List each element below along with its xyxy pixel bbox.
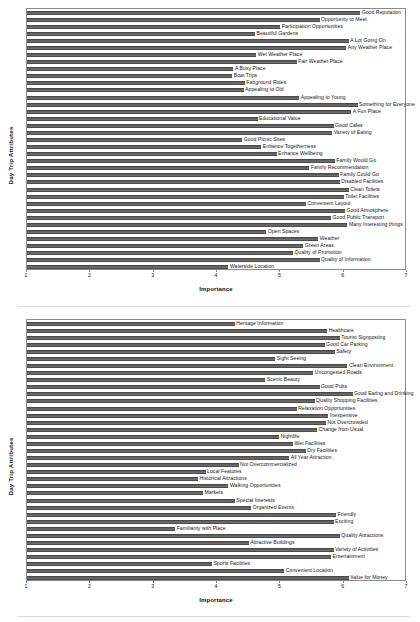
bar [27,527,175,531]
bar-row: Fairground Rides [27,81,407,85]
bar-row: Appealing to Young [27,96,407,100]
bar-row: A Fun Place [27,110,407,114]
bar [27,223,347,227]
bar-row: Inexpensive [27,414,407,418]
bar-row: Enhance Wellbeing [27,152,407,156]
bar-row: Weather [27,237,407,241]
bar-row: Good Picnic Sites [27,138,407,142]
x-axis-tick-label: 4 [215,272,218,278]
bar-row: Local Features [27,470,407,474]
chart-1-x-axis: 1234567 [26,270,406,282]
bar-row: Entertainment [27,555,407,559]
bar-row: A Busy Place [27,67,407,71]
bar-value-label: Family Would Go [335,159,376,164]
bar-row: Familiarity with Place [27,527,407,531]
bar-value-label: Sports Facilities [212,562,250,567]
bar [27,96,299,100]
bar-row: Exciting [27,520,407,524]
bar-value-label: Open Spaces [266,230,299,235]
bar-value-label: Tourist Signposting [340,335,386,340]
chart-2-x-axis-title: Importance [26,597,406,603]
bar [27,237,318,241]
bar [27,258,320,262]
bar-value-label: Familiarity with Place [175,526,225,531]
bar-row: Many Interesting things [27,223,407,227]
chart-2: Day Trip Attributes Heritage Information… [0,311,420,622]
bar [27,216,331,220]
x-axis-tick-label: 1 [25,583,28,589]
bar-row: Quality of Promotion [27,251,407,255]
bar-row: Appealing to Old [27,88,407,92]
chart-1-x-axis-title: Importance [26,286,406,292]
bar [27,18,320,22]
bar-value-label: Friendly [336,512,356,517]
bar [27,166,309,170]
bar-row: Variety of Eating [27,131,407,135]
bar [27,456,289,460]
chart-1-y-axis-title: Day Trip Attributes [2,0,20,311]
bar-row: Open Spaces [27,230,407,234]
bar-row: Enhance Togetherness [27,145,407,149]
bar-row: Good Eating and Drinking [27,392,407,396]
bar-value-label: Local Features [206,470,242,475]
bar-value-label: Boat Trips [232,74,257,79]
bar [27,491,203,495]
bar [27,67,233,71]
bar-row: All Year Attraction [27,456,407,460]
bar [27,74,232,78]
bar [27,117,258,121]
bar-value-label: Good Picnic Sites [242,137,285,142]
bar-row: Good Pubs [27,385,407,389]
bar-row: Opportunity to Meet [27,18,407,22]
bar-value-label: Good Reputation [360,10,401,15]
bar-value-label: Fairground Rides [245,81,286,86]
x-axis-tick-label: 2 [88,272,91,278]
bar [27,484,228,488]
bar-row: Family Recommendation [27,166,407,170]
bar-row: Green Areas [27,244,407,248]
bar-row: Not Overcommercialized [27,463,407,467]
bar-row: Good Cafes [27,124,407,128]
bar [27,449,306,453]
bar-value-label: Beautiful Gardens [255,31,298,36]
bar-value-label: Variety of Eating [332,130,371,135]
bar-row: Waterside Location [27,265,407,269]
bar-value-label: Clean Environment [347,363,393,368]
bar [27,81,245,85]
bar-row: Historical Attractions [27,477,407,481]
bar-value-label: Organized Events [251,505,294,510]
bar-value-label: Toilet Facilities [344,194,379,199]
bar [27,520,334,524]
bar-row: Quality of Information [27,258,407,262]
bar-value-label: Healthcare [327,328,354,333]
bar-value-label: Quality of Promotion [293,251,342,256]
bar-value-label: Good Public Transport [331,215,384,220]
bar-value-label: Dry Facilities [306,448,337,453]
bar-row: Beautiful Gardens [27,32,407,36]
bar-row: Good Reputation [27,11,407,15]
x-axis-tick-label: 6 [341,272,344,278]
bar-row: Uncongested Roads [27,371,407,375]
bar-value-label: All Year Attraction [289,456,331,461]
bar-value-label: A Lot Going On [349,38,386,43]
bar [27,392,353,396]
bar-row: Educational Value [27,117,407,121]
bar-row: Family Would Go [27,159,407,163]
bar [27,371,313,375]
x-axis-tick-label: 4 [215,583,218,589]
bar [27,244,303,248]
bar-value-label: Fair Weather Place [297,60,343,65]
chart-1-bars: Good ReputationOpportunity to MeetPartic… [27,9,405,269]
bar-row: Good Public Transport [27,216,407,220]
bar-value-label: Heritage Information [235,321,284,326]
bar-value-label: Enhance Togetherness [261,145,316,150]
bar-value-label: Entertainment [331,555,365,560]
bar [27,576,349,580]
bar [27,357,275,361]
bar-row: Not Overcrowded [27,421,407,425]
bar-row: Family Could Go [27,173,407,177]
bar-value-label: Good Cafes [334,123,363,128]
bar [27,329,327,333]
bar-row: Convenient Layout [27,202,407,206]
bar-value-label: Attractive Buildings [249,541,295,546]
